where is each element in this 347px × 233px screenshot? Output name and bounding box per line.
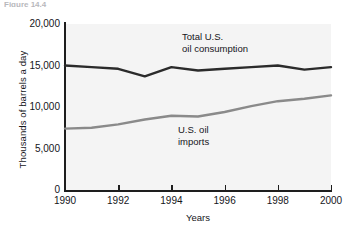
annotation-total-us-oil-consumption: Total U.S. oil consumption	[182, 31, 248, 54]
x-axis-title: Years	[65, 212, 331, 223]
line-total-us-oil-consumption	[65, 66, 331, 77]
annotation-us-oil-imports: U.S. oil imports	[178, 124, 209, 147]
